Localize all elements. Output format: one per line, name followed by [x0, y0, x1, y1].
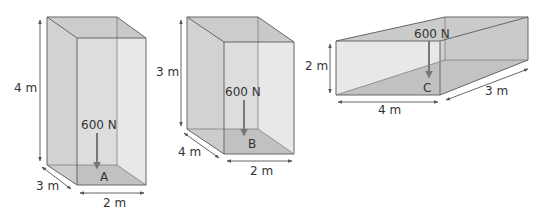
box-b-height-label: 3 m [156, 65, 179, 79]
box-b-point-label: B [248, 137, 256, 151]
box-a-back-face [47, 17, 117, 165]
box-c-depth-label: 3 m [485, 84, 508, 98]
box-c-height-label: 2 m [305, 59, 328, 73]
box-b: 3 m 4 m 2 m 600 N B [156, 17, 294, 178]
pressure-boxes-diagram: 4 m 3 m 2 m 600 N A 3 m 4 m 2 m 600 N [0, 0, 544, 216]
box-b-back-face [187, 17, 258, 129]
box-c-point-label: C [423, 81, 431, 95]
box-c: 2 m 4 m 3 m 600 N C [305, 17, 528, 117]
box-a-height-label: 4 m [14, 81, 37, 95]
box-a-point-label: A [100, 170, 109, 184]
box-c-width-label: 4 m [378, 103, 401, 117]
box-a-force-label: 600 N [81, 118, 117, 132]
box-a-width-label: 2 m [103, 196, 126, 210]
box-b-depth-label: 4 m [178, 145, 201, 159]
box-b-width-label: 2 m [250, 164, 273, 178]
box-c-force-label: 600 N [414, 27, 450, 41]
box-b-force-label: 600 N [225, 85, 261, 99]
box-a-depth-label: 3 m [36, 179, 59, 193]
box-a: 4 m 3 m 2 m 600 N A [14, 17, 146, 210]
